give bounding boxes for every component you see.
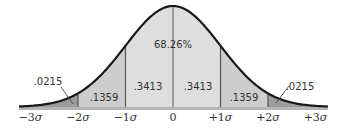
sigma-symbol: σ (35, 111, 43, 124)
tick-value: −2 (66, 111, 82, 124)
sigma-symbol: σ (130, 111, 138, 124)
region-right-tail (268, 93, 328, 107)
axis-tick-label: −2σ (66, 111, 90, 124)
region-label-left-center: .3413 (134, 81, 163, 92)
normal-distribution-diagram: 68.26% .0215 .1359 .3413 .3413 .1359 .02… (0, 0, 343, 130)
region-label-right-mid: .1359 (230, 92, 259, 103)
tick-value: +2 (256, 111, 272, 124)
axis-tick-label: +2σ (256, 111, 280, 124)
axis-tick-label: 0 (170, 111, 177, 124)
sigma-symbol: σ (82, 111, 90, 124)
tick-value: +1 (209, 111, 225, 124)
center-percentage-label: 68.26% (154, 39, 192, 50)
axis-tick-label: +3σ (304, 111, 328, 124)
baseline-axis (19, 107, 328, 110)
axis-tick-label: +1σ (209, 111, 233, 124)
region-label-right-center: .3413 (184, 81, 213, 92)
axis-tick-label: −3σ (19, 111, 43, 124)
sigma-symbol: σ (225, 111, 233, 124)
region-label-right-tail: .0215 (286, 81, 315, 92)
region-label-left-mid: .1359 (90, 92, 119, 103)
axis-tick-labels: −3σ−2σ−1σ0+1σ+2σ+3σ (19, 111, 328, 124)
axis-tick-label: −1σ (114, 111, 138, 124)
tick-value: −3 (19, 111, 35, 124)
region-label-left-tail: .0215 (34, 76, 63, 87)
tick-value: −1 (114, 111, 130, 124)
tick-value: +3 (304, 111, 320, 124)
sigma-symbol: σ (272, 111, 280, 124)
tick-value: 0 (170, 111, 177, 124)
sigma-symbol: σ (320, 111, 328, 124)
